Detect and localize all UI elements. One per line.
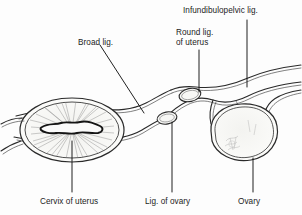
label-round-ligament-line1: Round lig. [176, 28, 213, 38]
diagram-canvas [0, 0, 302, 215]
leader-broad-ligament [100, 45, 144, 113]
label-ligament-of-ovary: Lig. of ovary [145, 197, 190, 207]
label-cervix-of-uterus: Cervix of uterus [40, 197, 98, 207]
ovary [211, 104, 278, 161]
label-infundibulopelvic-ligament: Infundibulopelvic lig. [183, 6, 258, 16]
label-broad-ligament: Broad lig. [78, 38, 113, 48]
ligament-of-ovary [156, 110, 178, 125]
anatomical-figure: Infundibulopelvic lig. Round lig. of ute… [0, 0, 302, 215]
label-round-ligament-line2: of uterus [176, 38, 208, 48]
infundibulopelvic-ligament [265, 90, 301, 114]
label-ovary: Ovary [238, 197, 260, 207]
